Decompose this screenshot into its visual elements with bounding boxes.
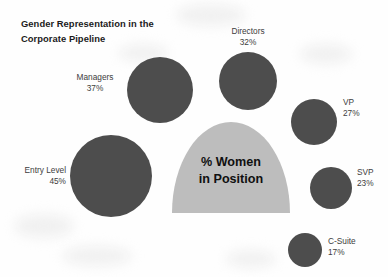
page-title: Gender Representation in the Corporate P… [21, 17, 201, 46]
center-dome: % Women in Position [172, 122, 290, 213]
label-entry-level: Entry Level 45% [4, 165, 66, 187]
scan-smudge [62, 246, 132, 266]
label-svp: SVP 23% [357, 167, 387, 189]
scan-smudge [14, 214, 74, 238]
scan-smudge [226, 250, 276, 268]
scan-smudge [300, 44, 352, 64]
infographic-canvas: Gender Representation in the Corporate P… [0, 0, 388, 277]
bubble-c-suite[interactable] [288, 233, 322, 267]
bubble-directors[interactable] [219, 52, 277, 110]
bubble-vp[interactable] [291, 99, 337, 145]
label-c-suite: C-Suite 17% [328, 236, 384, 258]
bubble-entry-level[interactable] [70, 135, 152, 217]
bubble-svp[interactable] [310, 167, 352, 209]
label-vp: VP 27% [343, 97, 385, 119]
center-metric-label: % Women in Position [172, 154, 290, 188]
label-directors: Directors 32% [219, 26, 277, 48]
label-managers: Managers 37% [64, 72, 126, 94]
bubble-managers[interactable] [127, 57, 193, 123]
